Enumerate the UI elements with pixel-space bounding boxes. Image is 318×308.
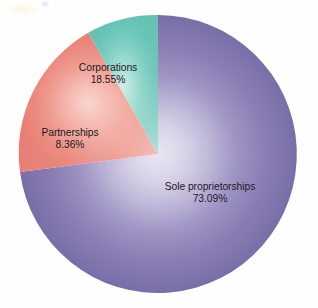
pie-label-sole-proprietorships-value: 73.09% <box>130 193 290 205</box>
pie-label-sole-proprietorships-name: Sole proprietorships <box>130 181 290 193</box>
pie-label-sole-proprietorships: Sole proprietorships 73.09% <box>130 181 290 206</box>
pie-label-corporations-value: 18.55% <box>46 74 170 86</box>
pie-chart-figure: Corporations 18.55% Partnerships 8.36% S… <box>0 0 318 308</box>
pie-label-partnerships-name: Partnerships <box>14 127 126 139</box>
pie-label-partnerships-value: 8.36% <box>14 139 126 151</box>
pie-center-highlight <box>19 15 297 293</box>
pie-chart-graphic <box>0 0 318 308</box>
pie-label-corporations: Corporations 18.55% <box>46 62 170 87</box>
pie-label-corporations-name: Corporations <box>46 62 170 74</box>
pie-label-partnerships: Partnerships 8.36% <box>14 127 126 152</box>
